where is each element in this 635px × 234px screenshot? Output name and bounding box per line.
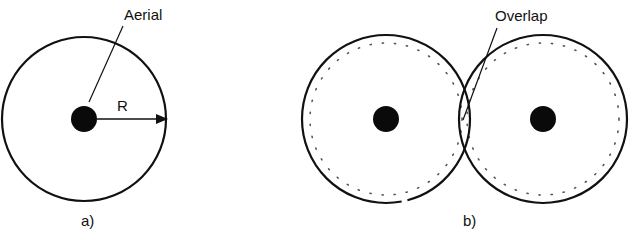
coverage-diagram: Aerial R a) Overlap b) bbox=[0, 0, 635, 234]
panel-b-caption: b) bbox=[463, 213, 476, 228]
aerial-dot-icon bbox=[71, 106, 97, 132]
panel-b bbox=[302, 28, 627, 203]
aerial-dot-right-icon bbox=[530, 106, 556, 132]
overlap-leader-line bbox=[463, 28, 497, 120]
aerial-label: Aerial bbox=[124, 7, 162, 22]
radius-label: R bbox=[117, 98, 128, 113]
aerial-dot-left-icon bbox=[373, 106, 399, 132]
panel-a-caption: a) bbox=[81, 213, 94, 228]
diagram-canvas bbox=[0, 0, 635, 234]
overlap-label: Overlap bbox=[495, 8, 548, 23]
panel-a bbox=[2, 26, 167, 201]
